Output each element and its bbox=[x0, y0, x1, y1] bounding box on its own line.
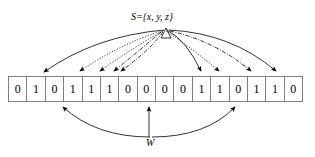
hash-arrow-x-2 bbox=[167, 30, 201, 71]
hash-arrow-y-2 bbox=[100, 31, 163, 71]
bit-cell: 0 bbox=[46, 77, 64, 101]
bit-cell: 0 bbox=[230, 77, 248, 101]
bit-cell: 0 bbox=[285, 77, 302, 101]
bit-cell: 1 bbox=[27, 77, 45, 101]
w-arrow-left bbox=[63, 107, 150, 137]
bit-cell: 0 bbox=[138, 77, 156, 101]
bit-cell: 1 bbox=[193, 77, 211, 101]
bit-cell: 0 bbox=[174, 77, 192, 101]
bit-cell: 1 bbox=[101, 77, 119, 101]
bit-cell: 1 bbox=[248, 77, 266, 101]
bit-array: 0101110000110110 bbox=[8, 76, 303, 102]
w-arrow-right bbox=[152, 107, 235, 137]
bit-cell: 1 bbox=[266, 77, 284, 101]
hash-arrow-z-3 bbox=[170, 31, 251, 71]
hash-arrow-z-1 bbox=[114, 32, 161, 71]
w-arrow-group bbox=[63, 107, 235, 137]
hash-arrow-z-2 bbox=[121, 32, 163, 71]
hash-arrow-group bbox=[44, 28, 276, 72]
bit-cell: 1 bbox=[64, 77, 82, 101]
hash-arrow-x-3 bbox=[169, 30, 276, 71]
bit-cell: 1 bbox=[83, 77, 101, 101]
bit-cell: 0 bbox=[119, 77, 137, 101]
bit-cell: 0 bbox=[9, 77, 27, 101]
bit-cell: 1 bbox=[211, 77, 229, 101]
bloom-filter-figure: S={x, y, z} 0101110000110110 W bbox=[0, 0, 315, 157]
set-label: S={x, y, z} bbox=[131, 12, 173, 22]
w-label: W bbox=[146, 138, 154, 148]
bit-cell: 0 bbox=[156, 77, 174, 101]
